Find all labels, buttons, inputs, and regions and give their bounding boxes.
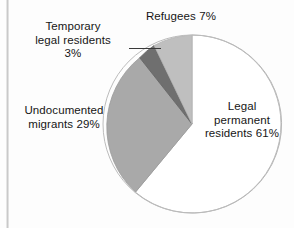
pie-label-undocumented-line1: Undocumented — [8, 104, 120, 118]
pie-label-legal-line2: permanent — [196, 114, 288, 128]
pie-chart-figure: Refugees 7% Temporary legal residents 3%… — [0, 0, 294, 228]
pie-label-legal-line3: residents 61% — [196, 127, 288, 141]
pie-label-undocumented-migrants: Undocumented migrants 29% — [8, 104, 120, 131]
pie-label-temporary-legal-residents: Temporary legal residents 3% — [18, 20, 128, 61]
pie-label-legal-line1: Legal — [196, 100, 288, 114]
pie-label-temporary-line1: Temporary — [18, 20, 128, 34]
chart-plot-area: Refugees 7% Temporary legal residents 3%… — [0, 0, 294, 228]
pie-label-temporary-line3: 3% — [18, 47, 128, 61]
pie-label-undocumented-line2: migrants 29% — [8, 118, 120, 132]
pie-label-refugees-line1: Refugees 7% — [133, 10, 229, 24]
pie-label-temporary-line2: legal residents — [18, 34, 128, 48]
pie-label-legal-permanent-residents: Legal permanent residents 61% — [196, 100, 288, 141]
pie-label-refugees: Refugees 7% — [133, 10, 229, 24]
